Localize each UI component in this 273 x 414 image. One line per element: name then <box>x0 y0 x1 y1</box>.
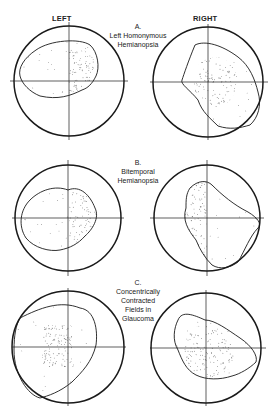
field-boundary-b-left <box>21 188 96 250</box>
field-boundary-b-right <box>185 182 260 268</box>
field-boundary-a-left <box>20 41 98 98</box>
visual-field-diagram <box>0 0 273 414</box>
axes <box>10 22 268 406</box>
stipple-b-right-dense <box>180 178 211 266</box>
stipple-c-right-dense <box>182 321 238 378</box>
stipple-c-left-dense <box>40 323 74 370</box>
stipple-b-right-sparse <box>180 185 262 269</box>
stipple-a-left-dense <box>66 46 100 97</box>
field-boundary-a-right <box>182 43 260 128</box>
stipple-a-right-dense <box>190 55 240 111</box>
stipple-c-right-sparse <box>171 311 259 381</box>
stipple-a-left-sparse <box>16 36 103 102</box>
field-boundary-c-right <box>174 314 256 379</box>
